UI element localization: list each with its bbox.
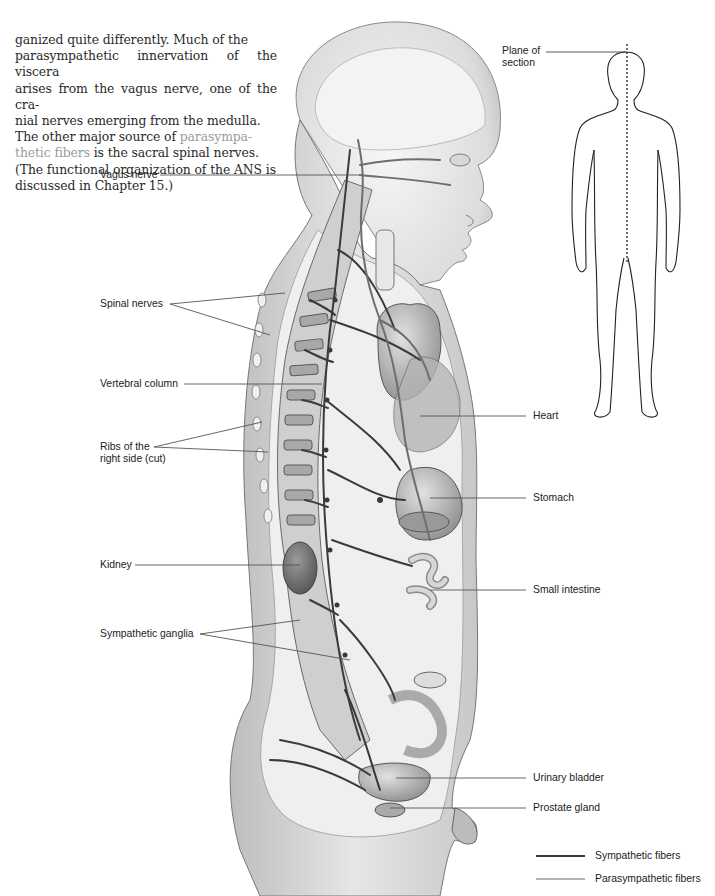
legend-sympathetic-label: Sympathetic fibers [595,850,680,862]
label-heart: Heart [533,410,558,422]
label-vertebral-column: Vertebral column [100,378,178,390]
label-small-intestine: Small intestine [533,584,601,596]
label-vagus-nerve: Vagus nerve [100,169,158,181]
label-stomach: Stomach [533,492,574,504]
body-silhouette [230,22,500,896]
inset-body-outline [572,52,680,417]
label-prostate-gland: Prostate gland [533,802,600,814]
legend-parasympathetic-label: Parasympathetic fibers [595,873,701,885]
prostate-art [375,803,405,817]
label-urinary-bladder: Urinary bladder [533,772,604,784]
plane-of-section-label: Plane of section [502,45,540,69]
eye [450,154,470,166]
label-sympathetic-ganglia: Sympathetic ganglia [100,628,194,640]
label-spinal-nerves: Spinal nerves [100,298,163,310]
label-kidney: Kidney [100,559,132,571]
trachea [376,230,394,290]
label-ribs: Ribs of the right side (cut) [100,441,166,465]
kidney-art [283,542,317,594]
